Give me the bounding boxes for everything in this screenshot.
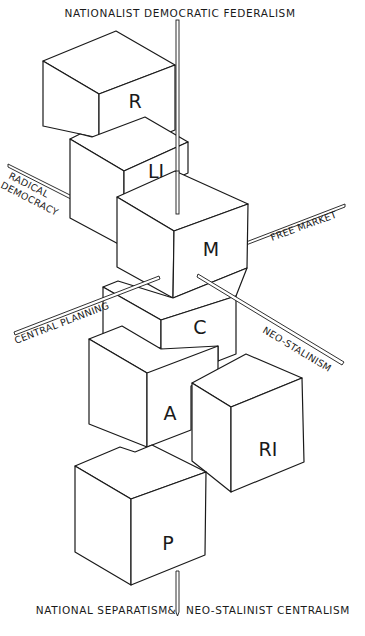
cube-ri: RI (192, 354, 304, 492)
cube-label-p: P (162, 532, 173, 554)
cube-label-c: C (193, 316, 206, 338)
svg-text:Free Market: Free Market (269, 209, 338, 243)
axis-label-bottom-connector: & (168, 604, 177, 616)
axis-label-bottom-right: Neo-Stalinist Centralism (186, 604, 350, 616)
cube-label-r: R (128, 90, 141, 112)
axis-label-top: Nationalist Democratic Federalism (64, 7, 295, 19)
cube-label-ri: RI (259, 438, 278, 460)
axis-label-bottom-left: National Separatism (36, 604, 168, 616)
axis-vertical-bottom (176, 571, 179, 616)
political-axes-diagram: Nationalist Democratic Federalism Radica… (0, 0, 365, 636)
axis-label-free-market: Free Market (269, 209, 338, 243)
cube-label-m: M (203, 238, 219, 260)
cube-label-a: A (164, 402, 177, 424)
cube-p: P (75, 445, 206, 585)
